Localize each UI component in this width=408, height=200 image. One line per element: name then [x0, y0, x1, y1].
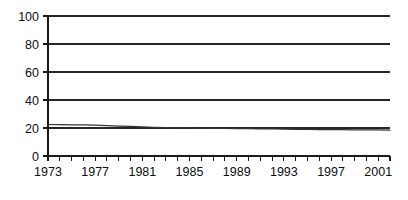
- y-tick-label-100: 100: [18, 10, 39, 24]
- x-tick-label-1997: 1997: [317, 165, 345, 179]
- y-tick-label-0: 0: [32, 150, 39, 164]
- x-axis: [48, 156, 390, 161]
- y-tick-label-40: 40: [25, 94, 39, 108]
- gridlines-group: [48, 16, 390, 128]
- x-tick-label-1989: 1989: [223, 165, 251, 179]
- y-tick-label-80: 80: [25, 38, 39, 52]
- line-chart: 020406080100 197319771981198519891993199…: [0, 0, 408, 200]
- data-series-group: [48, 125, 390, 131]
- x-tick-label-1977: 1977: [81, 165, 109, 179]
- series-line-1: [48, 125, 390, 131]
- chart-canvas: 020406080100 197319771981198519891993199…: [0, 0, 408, 200]
- x-tick-label-1993: 1993: [270, 165, 298, 179]
- x-tick-label-2001: 2001: [364, 165, 392, 179]
- x-tick-label-1973: 1973: [34, 165, 62, 179]
- x-tick-label-1985: 1985: [176, 165, 204, 179]
- y-tick-labels-group: 020406080100: [18, 10, 39, 164]
- y-tick-label-20: 20: [25, 122, 39, 136]
- y-axis: [43, 16, 48, 156]
- x-tick-label-1981: 1981: [128, 165, 156, 179]
- y-tick-label-60: 60: [25, 66, 39, 80]
- x-tick-labels-group: 19731977198119851989199319972001: [34, 165, 392, 179]
